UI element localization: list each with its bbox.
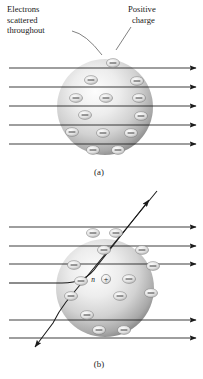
electron [144,289,157,298]
electrons-label-line-2: scattered [7,15,38,25]
atomic-model-figure: Electrons scattered throughout Positive … [0,0,203,379]
electron [84,76,97,85]
electrons-label-leader-line [72,31,102,55]
positive-charge-sphere-a [57,59,153,155]
panel-b: n + (b) [9,191,196,369]
electron [67,261,80,270]
electron [92,326,105,335]
nucleus-plus-sign: + [104,275,109,284]
electron [111,146,124,155]
electron [109,229,122,238]
electron [122,275,135,284]
electron [132,94,145,103]
electron [113,292,126,301]
positive-charge-label-line-1: Positive [128,4,156,14]
electrons-label-line-1: Electrons [7,4,40,14]
electron [97,246,110,255]
electron [86,146,99,155]
figure-canvas: Electrons scattered throughout Positive … [0,0,203,379]
electrons-label-line-3: throughout [7,25,45,35]
electron [135,246,148,255]
electron [130,77,143,86]
electron [86,229,99,238]
electron [96,129,109,138]
electrons-label: Electrons scattered throughout [7,4,102,55]
positive-charge-label-leader-line [116,27,131,50]
electron [106,59,119,68]
electron [134,112,147,121]
electron [80,311,93,320]
electron [146,262,159,271]
electron [124,129,137,138]
electron [74,277,87,286]
electron [64,292,77,301]
panel-a-caption: (a) [94,167,104,177]
electron [65,128,78,137]
positive-charge-label-line-2: charge [132,15,155,25]
electron [117,326,130,335]
nucleus-letter: n [91,275,95,284]
panel-a: Electrons scattered throughout Positive … [7,4,196,177]
electron [69,94,82,103]
electron [99,94,112,103]
electron [78,111,91,120]
panel-b-caption: (b) [94,359,104,369]
positive-charge-label: Positive charge [116,4,156,50]
